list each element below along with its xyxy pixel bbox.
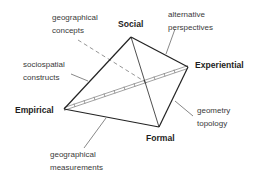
svg-text:topology: topology — [197, 119, 227, 128]
vertex-label-experiential: Experiential — [195, 60, 244, 70]
vertex-label-social: Social — [118, 19, 143, 29]
svg-text:measurements: measurements — [50, 163, 103, 172]
label-sociospatial-constructs: sociospatial constructs — [23, 60, 65, 82]
hatched-edge-empirical-experiential — [64, 66, 188, 111]
label-geometry-topology: geometry topology — [197, 106, 230, 128]
svg-text:geometry: geometry — [197, 106, 230, 115]
edge-experiential-formal — [159, 67, 188, 127]
leader-measurements — [84, 118, 106, 148]
vertex-label-formal: Formal — [146, 133, 175, 143]
tetrahedron-diagram: Social Experiential Formal Empirical geo… — [0, 0, 259, 182]
vertex-label-empirical: Empirical — [15, 105, 54, 115]
svg-text:concepts: concepts — [52, 26, 84, 35]
label-geographical-measurements: geographical measurements — [50, 150, 103, 172]
svg-text:geographical: geographical — [50, 150, 96, 159]
svg-text:alternative: alternative — [168, 10, 205, 19]
dashed-hidden-edge — [78, 40, 147, 83]
leader-geometry — [175, 101, 193, 116]
svg-text:constructs: constructs — [23, 73, 59, 82]
leader-lines — [71, 29, 193, 148]
edge-social-experiential — [131, 37, 188, 67]
edge-social-formal — [131, 37, 159, 127]
svg-text:perspectives: perspectives — [168, 23, 213, 32]
label-alternative-perspectives: alternative perspectives — [168, 10, 213, 32]
leader-sociospatial — [71, 74, 88, 81]
label-geographical-concepts: geographical concepts — [52, 13, 98, 35]
tetrahedron-edges — [64, 37, 188, 127]
edge-empirical-formal — [64, 109, 159, 127]
svg-text:sociospatial: sociospatial — [23, 60, 65, 69]
leader-alternative — [166, 29, 175, 54]
svg-text:geographical: geographical — [52, 13, 98, 22]
edge-empirical-social — [64, 37, 131, 109]
